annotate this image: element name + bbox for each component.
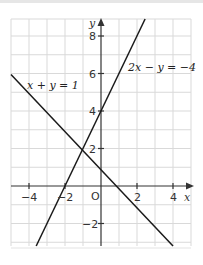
y-tick-8: 8 <box>89 30 96 43</box>
origin-label: O <box>91 190 100 203</box>
x-tick-neg2: −2 <box>57 191 73 204</box>
y-tick-6: 6 <box>89 68 96 81</box>
x-tick-4: 4 <box>170 191 177 204</box>
graph: y x O −4 −2 2 4 8 6 4 2 −2 x + y = 1 2x … <box>0 0 203 265</box>
x-tick-2: 2 <box>134 191 141 204</box>
x-axis-arrow-icon <box>186 183 194 190</box>
line-2x-minus-y-eq-neg4 <box>36 19 145 246</box>
y-axis-label: y <box>88 17 96 30</box>
y-tick-4: 4 <box>89 105 96 118</box>
axes <box>11 18 194 246</box>
equation-label-1: x + y = 1 <box>27 79 79 92</box>
x-tick-neg4: −4 <box>21 191 37 204</box>
equation-label-2: 2x − y = −4 <box>127 61 196 74</box>
y-tick-2: 2 <box>89 143 96 156</box>
x-axis-label: x <box>184 191 191 204</box>
y-tick-neg2: −2 <box>82 218 98 231</box>
